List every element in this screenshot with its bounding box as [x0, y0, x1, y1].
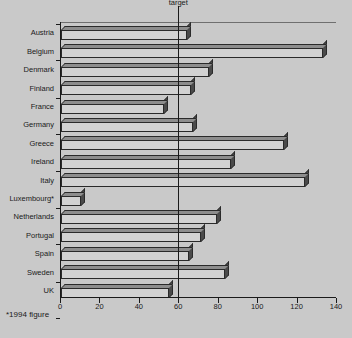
bar-rows: [60, 22, 336, 298]
y-axis-label: Netherlands: [0, 213, 54, 221]
bar-row: [60, 243, 336, 261]
bar-front-face: [61, 177, 305, 187]
x-axis-tick-label: 60: [174, 302, 182, 311]
bar-row: [60, 114, 336, 132]
y-axis-label: Belgium: [0, 48, 54, 56]
x-axis-tick-labels: 020406080100120140: [60, 302, 336, 314]
x-axis-tick-label: 100: [251, 302, 264, 311]
bar-side-face: [225, 261, 229, 279]
y-axis-label: Ireland: [0, 158, 54, 166]
x-axis-tick-label: 20: [95, 302, 103, 311]
y-axis-label: Greece: [0, 140, 54, 148]
bar: [61, 159, 231, 169]
y-axis-label: Germany: [0, 121, 54, 129]
bar: [61, 177, 305, 187]
bar-front-face: [61, 159, 231, 169]
bar-side-face: [169, 280, 173, 298]
footnote: *1994 figure: [6, 310, 49, 319]
bar-front-face: [61, 251, 189, 261]
bar: [61, 67, 209, 77]
bar-front-face: [61, 214, 217, 224]
bar-row: [60, 132, 336, 150]
bar-row: [60, 224, 336, 242]
y-axis-category-labels: AustriaBelgiumDenmarkFinlandFranceGerman…: [0, 22, 58, 298]
bar-row: [60, 169, 336, 187]
bar-row: [60, 96, 336, 114]
bar-side-face: [81, 188, 85, 206]
x-axis-tick-label: 80: [214, 302, 222, 311]
y-axis-label: Austria: [0, 29, 54, 37]
y-axis-label: Luxembourg*: [0, 195, 54, 203]
bar-front-face: [61, 122, 193, 132]
bar-side-face: [217, 206, 221, 224]
bar-row: [60, 280, 336, 298]
bar-row: [60, 40, 336, 58]
bar-side-face: [305, 169, 309, 187]
bar: [61, 30, 187, 40]
bar-side-face: [189, 243, 193, 261]
target-line: [178, 6, 179, 298]
bar-side-face: [164, 96, 168, 114]
bar-side-face: [187, 22, 191, 40]
bar-front-face: [61, 104, 164, 114]
bar: [61, 269, 225, 279]
bar-row: [60, 151, 336, 169]
x-axis-tick-label: 0: [58, 302, 62, 311]
bar-front-face: [61, 30, 187, 40]
bar-front-face: [61, 48, 323, 58]
bar-front-face: [61, 232, 201, 242]
bar-front-face: [61, 196, 81, 206]
y-axis-label: UK: [0, 287, 54, 295]
y-axis-label: Denmark: [0, 66, 54, 74]
x-axis-tick-label: 120: [290, 302, 303, 311]
bar-row: [60, 59, 336, 77]
bar-row: [60, 22, 336, 40]
bar: [61, 196, 81, 206]
bar: [61, 251, 189, 261]
y-axis-tick: [56, 318, 60, 319]
y-axis-label: Spain: [0, 250, 54, 258]
bar-side-face: [191, 77, 195, 95]
bar: [61, 48, 323, 58]
y-axis-label: France: [0, 103, 54, 111]
y-axis-label: Portugal: [0, 232, 54, 240]
plot-area: 020406080100120140 target: [60, 22, 336, 298]
bar-row: [60, 206, 336, 224]
bar: [61, 104, 164, 114]
bar-side-face: [193, 114, 197, 132]
y-axis-label: Sweden: [0, 269, 54, 277]
bar-row: [60, 188, 336, 206]
bar-row: [60, 77, 336, 95]
x-axis-tick-label: 140: [330, 302, 343, 311]
bar: [61, 85, 191, 95]
bar: [61, 214, 217, 224]
y-axis-label: Italy: [0, 177, 54, 185]
bar-front-face: [61, 85, 191, 95]
bar: [61, 122, 193, 132]
bar-side-face: [231, 151, 235, 169]
bar-front-face: [61, 269, 225, 279]
bar-side-face: [209, 59, 213, 77]
bar: [61, 232, 201, 242]
y-axis-label: Finland: [0, 85, 54, 93]
y-axis-line: [60, 22, 61, 298]
x-axis-tick-label: 40: [135, 302, 143, 311]
target-label: target: [169, 0, 188, 7]
bar-chart: AustriaBelgiumDenmarkFinlandFranceGerman…: [0, 0, 352, 338]
bar-front-face: [61, 67, 209, 77]
bar-front-face: [61, 140, 284, 150]
bar: [61, 140, 284, 150]
bar-row: [60, 261, 336, 279]
